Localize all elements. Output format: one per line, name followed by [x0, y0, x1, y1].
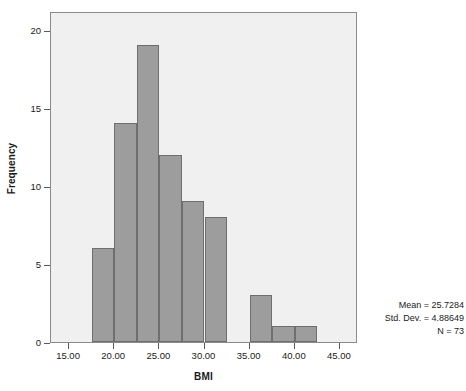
x-tick-mark — [204, 343, 205, 349]
x-tick-mark — [68, 343, 69, 349]
x-tick-mark — [294, 343, 295, 349]
stat-n: N = 73 — [364, 325, 464, 338]
y-tick-label: 20 — [15, 26, 41, 36]
histogram-bar — [272, 326, 295, 342]
histogram-bar — [250, 295, 273, 342]
stat-mean: Mean = 25.7284 — [364, 299, 464, 312]
y-tick-label: 15 — [15, 104, 41, 114]
y-tick-label: 10 — [15, 182, 41, 192]
histogram-bar — [182, 201, 205, 342]
histogram-bar — [295, 326, 318, 342]
x-tick-mark — [249, 343, 250, 349]
histogram-bar — [92, 248, 115, 342]
x-axis-title: BMI — [50, 371, 357, 382]
stat-std-dev: Std. Dev. = 4.88649 — [364, 312, 464, 325]
x-tick-mark — [113, 343, 114, 349]
plot-inner — [51, 13, 356, 342]
histogram-bar — [137, 45, 160, 342]
histogram-bar — [205, 217, 228, 342]
x-tick-mark — [158, 343, 159, 349]
histogram-figure: Frequency 05101520 15.0020.0025.0030.003… — [0, 0, 466, 391]
x-tick-label: 45.00 — [309, 351, 369, 361]
histogram-bar — [159, 155, 182, 342]
plot-area — [50, 12, 357, 343]
y-tick-label: 5 — [15, 260, 41, 270]
histogram-bar — [114, 123, 137, 342]
x-tick-mark — [339, 343, 340, 349]
statistics-annotation: Mean = 25.7284 Std. Dev. = 4.88649 N = 7… — [364, 299, 464, 338]
y-axis-ticks: 05101520 — [0, 0, 50, 391]
